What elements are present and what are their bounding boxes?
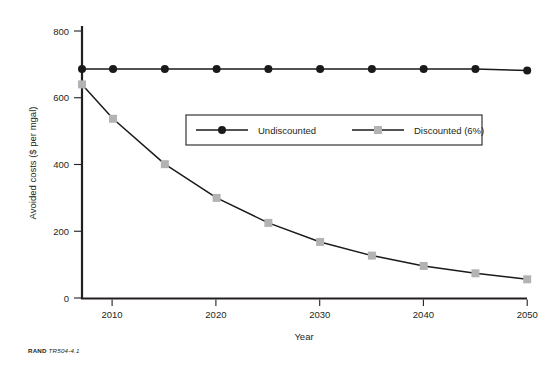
- data-point-circle[interactable]: [368, 65, 376, 73]
- data-point-square[interactable]: [78, 80, 86, 88]
- data-point-circle[interactable]: [78, 65, 86, 73]
- avoided-costs-line-chart: 800 600 400 200 0 2010 2020 2030 2040 20…: [0, 0, 553, 374]
- data-point-square[interactable]: [161, 160, 169, 168]
- data-point-circle[interactable]: [213, 65, 221, 73]
- data-point-square[interactable]: [316, 238, 324, 246]
- legend-marker-square-icon: [374, 126, 382, 134]
- data-point-circle[interactable]: [316, 65, 324, 73]
- y-tick-label-600: 600: [53, 92, 69, 103]
- data-point-circle[interactable]: [109, 65, 117, 73]
- data-point-square[interactable]: [420, 262, 428, 270]
- data-point-square[interactable]: [213, 194, 221, 202]
- y-tick-label-800: 800: [53, 26, 69, 37]
- chart-legend: Undiscounted Discounted (6%): [186, 115, 484, 145]
- data-point-circle[interactable]: [523, 66, 531, 74]
- source-brand: RAND: [28, 347, 47, 354]
- x-axis-title: Year: [294, 331, 313, 342]
- data-point-square[interactable]: [109, 115, 117, 123]
- data-point-circle[interactable]: [161, 65, 169, 73]
- data-point-square[interactable]: [471, 269, 479, 277]
- data-point-square[interactable]: [523, 275, 531, 283]
- data-point-circle[interactable]: [471, 65, 479, 73]
- figure-container: 800 600 400 200 0 2010 2020 2030 2040 20…: [0, 0, 553, 374]
- y-tick-label-400: 400: [53, 159, 69, 170]
- x-tick-label-2050: 2050: [517, 309, 538, 320]
- figure-source-note: RAND TR504-4.1: [28, 347, 80, 354]
- x-tick-label-2010: 2010: [102, 309, 123, 320]
- data-point-square[interactable]: [264, 219, 272, 227]
- data-point-square[interactable]: [368, 252, 376, 260]
- data-point-circle[interactable]: [264, 65, 272, 73]
- legend-marker-circle-icon: [218, 126, 226, 134]
- legend-label-undiscounted: Undiscounted: [258, 125, 316, 136]
- legend-label-discounted: Discounted (6%): [414, 125, 484, 136]
- y-tick-label-0: 0: [64, 293, 69, 304]
- x-tick-label-2040: 2040: [413, 309, 434, 320]
- data-point-circle[interactable]: [420, 65, 428, 73]
- source-figure-id: TR504-4.1: [49, 347, 80, 354]
- y-axis-title: Avoided costs ($ per mgal): [27, 107, 38, 220]
- x-tick-label-2020: 2020: [205, 309, 226, 320]
- x-tick-label-2030: 2030: [309, 309, 330, 320]
- y-tick-label-200: 200: [53, 226, 69, 237]
